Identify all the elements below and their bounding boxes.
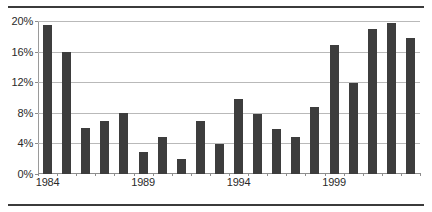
x-axis-tick-mark [344,173,345,176]
x-axis-ticks-group: 1984198919941999 [38,176,420,194]
x-axis-tick-mark [172,173,173,176]
x-axis-tick-mark [325,173,326,176]
x-axis-tick-mark [114,173,115,176]
x-axis-tick-mark [363,173,364,176]
bars-group [38,21,420,174]
bar [43,25,52,174]
bar [234,99,243,174]
bar [406,38,415,174]
y-axis-tick-label: 12% [12,76,33,88]
bar [100,121,109,174]
bar [310,107,319,174]
x-axis-tick-mark [305,173,306,176]
x-axis-tick-mark [38,173,39,176]
bar [330,45,339,174]
x-axis-tick-mark [95,173,96,176]
x-axis-tick-mark [401,173,402,176]
bar [349,83,358,174]
bar [119,113,128,174]
x-axis-tick-label: 1984 [36,176,60,188]
x-axis-tick-label: 1994 [227,176,251,188]
x-axis-tick-label: 1989 [131,176,155,188]
bar [253,114,262,174]
x-axis-tick-mark [191,173,192,176]
x-axis-tick-mark [57,173,58,176]
bar [291,137,300,174]
bar [368,29,377,174]
y-axis-tick-label: 4% [18,137,34,149]
x-axis-tick-mark [134,173,135,176]
x-axis-tick-mark [267,173,268,176]
x-axis-tick-mark [382,173,383,176]
x-axis-tick-mark [229,173,230,176]
x-axis-tick-mark [153,173,154,176]
bar [139,152,148,174]
x-axis-tick-mark [286,173,287,176]
bar [62,52,71,174]
x-axis-tick-mark [420,173,421,176]
bar [272,129,281,174]
bar [387,23,396,174]
bar [81,128,90,174]
bar [158,137,167,174]
y-axis-tick-label: 20% [12,15,33,27]
bar-chart-figure: 0%4%8%12%16%20% 1984198919941999 [0,0,432,212]
bar [177,159,186,174]
bar [196,121,205,174]
plot-area: 0%4%8%12%16%20% [38,21,420,174]
x-axis-tick-mark [248,173,249,176]
bottom-divider-rule [8,204,424,206]
bar [215,144,224,174]
x-axis-tick-mark [210,173,211,176]
x-axis-tick-mark [76,173,77,176]
top-divider-rule [8,6,424,8]
y-axis-tick-label: 8% [18,107,34,119]
x-axis-tick-label: 1999 [322,176,346,188]
y-axis-tick-label: 16% [12,46,33,58]
y-axis-tick-label: 0% [18,168,34,180]
